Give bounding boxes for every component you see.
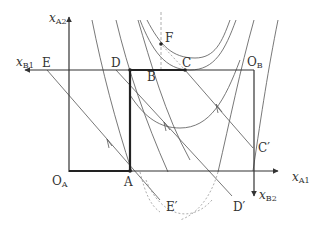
indifference-curve-b-3-dashed [180,172,218,220]
dashed-lower-curve-2 [140,172,160,212]
ab-bc-path [130,70,185,171]
indifference-curve-b-2 [218,20,254,172]
indifference-curve-a-1 [92,20,132,172]
label-e-prime: E′ [166,200,178,214]
indifference-curve-a-3 [138,20,190,160]
point-a [128,169,132,173]
origin-b-label: OB [247,55,263,70]
x-a1-label: xA1 [292,170,310,185]
budget-line-c [185,70,253,148]
origin-a-label: OA [52,174,68,189]
point-b [128,68,132,72]
x-a2-label: xA2 [49,11,67,26]
label-c: C [182,56,191,70]
x-b2-label: xB2 [259,188,277,203]
label-d: D [111,56,121,70]
point-f [159,42,163,46]
label-f: F [165,31,173,45]
x-b1-label: xB1 [16,55,34,70]
budget-line-d [116,70,232,196]
label-a: A [123,175,133,189]
u-curve-inner [147,20,230,58]
label-c-prime: C′ [258,141,270,155]
label-b: B [147,70,156,84]
label-e: E [42,56,51,70]
edgeworth-box-diagram: xA2 xB1 xA1 xB2 OA OB A B C D E F C′ D′ … [0,0,320,234]
label-d-prime: D′ [233,200,246,214]
